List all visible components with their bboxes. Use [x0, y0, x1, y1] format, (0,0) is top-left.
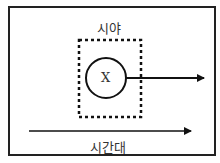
- timeline-label: 시간대: [90, 137, 126, 156]
- field-of-view-label: 시야: [97, 18, 121, 37]
- entity-label: X: [101, 70, 110, 85]
